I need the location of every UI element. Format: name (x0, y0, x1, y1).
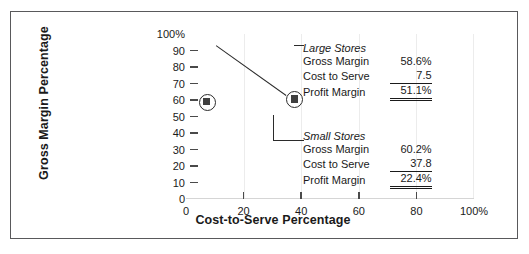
y-tick-mark (190, 132, 198, 134)
y-tick-label: 10 (173, 177, 185, 189)
y-axis-tick: 50 (136, 111, 198, 123)
y-tick-mark (190, 198, 198, 200)
callout-row-label: Gross Margin (303, 143, 390, 157)
y-axis-tick: 80 (136, 61, 198, 73)
y-tick-mark (190, 165, 198, 167)
x-tick-mark (300, 192, 302, 199)
callout-row: Gross Margin 58.6% (303, 55, 432, 69)
y-axis-tick: 30 (136, 144, 198, 156)
x-tick-label: 20 (237, 205, 249, 217)
y-tick-label: 50 (173, 111, 185, 123)
figure-frame: Gross Margin Percentage Cost-to-Serve Pe… (10, 11, 518, 239)
x-axis-title: Cost-to-Serve Percentage (123, 213, 423, 227)
data-point-large-stores[interactable] (199, 94, 216, 111)
x-tick-label: 40 (295, 205, 307, 217)
callout-row-value: 58.6% (390, 55, 432, 69)
y-tick-label: 40 (173, 127, 185, 139)
x-tick-mark (416, 192, 418, 199)
callout-table: Gross Margin 60.2% Cost to Serve 37.8 Pr… (303, 143, 432, 189)
x-axis-line (186, 198, 474, 199)
callout-row-value: 37.8 (390, 157, 432, 172)
callout-row-value: 22.4% (390, 172, 432, 188)
callout-title: Large Stores (303, 42, 432, 54)
x-tick-label: 100% (460, 205, 488, 217)
x-tick-label: 0 (183, 205, 189, 217)
y-axis-tick: 90 (136, 45, 198, 57)
y-tick-mark (190, 116, 198, 118)
y-tick-mark (190, 149, 198, 151)
callout-row: Cost to Serve 37.8 (303, 157, 432, 172)
y-tick-mark (190, 50, 198, 52)
callout-row-label: Cost to Serve (303, 157, 390, 172)
y-tick-label: 100% (157, 28, 185, 40)
y-tick-label: 70 (173, 78, 185, 90)
y-axis-tick: 10 (136, 177, 198, 189)
x-tick-mark (358, 192, 360, 199)
callout-row-label: Profit Margin (303, 172, 390, 188)
y-tick-mark (190, 99, 198, 101)
y-tick-label: 0 (179, 193, 185, 205)
callout-row-label: Gross Margin (303, 55, 390, 69)
callout-large-stores: Large Stores Gross Margin 58.6% Cost to … (303, 42, 432, 101)
y-axis-title: Gross Margin Percentage (37, 18, 51, 188)
y-axis-tick: 100% (136, 28, 198, 40)
y-tick-mark (190, 66, 198, 68)
leader-line-small-stores (273, 115, 274, 141)
y-axis-tick: 70 (136, 78, 198, 90)
y-tick-label: 20 (173, 160, 185, 172)
callout-row-value: 7.5 (390, 69, 432, 84)
callout-title: Small Stores (303, 130, 432, 142)
callout-row-label: Cost to Serve (303, 69, 390, 84)
callout-small-stores: Small Stores Gross Margin 60.2% Cost to … (303, 130, 432, 189)
callout-row-value: 60.2% (390, 143, 432, 157)
callout-row: Gross Margin 60.2% (303, 143, 432, 157)
callout-row-total: Profit Margin 51.1% (303, 84, 432, 100)
y-tick-label: 90 (173, 45, 185, 57)
callout-table: Gross Margin 58.6% Cost to Serve 7.5 Pro… (303, 55, 432, 101)
callout-row-label: Profit Margin (303, 84, 390, 100)
leader-line-small-stores-elbow (273, 140, 304, 141)
callout-row-value: 51.1% (390, 84, 432, 100)
y-axis-tick: 20 (136, 160, 198, 172)
y-tick-label: 80 (173, 61, 185, 73)
callout-row-total: Profit Margin 22.4% (303, 172, 432, 188)
callout-row: Cost to Serve 7.5 (303, 69, 432, 84)
x-tick-label: 80 (410, 205, 422, 217)
x-tick-label: 60 (353, 205, 365, 217)
y-axis-tick: 40 (136, 127, 198, 139)
y-axis-tick: 0 (136, 193, 198, 205)
y-tick-mark (190, 33, 198, 35)
y-tick-mark (190, 83, 198, 85)
y-axis-tick: 60 (136, 94, 198, 106)
y-tick-label: 60 (173, 94, 185, 106)
y-tick-mark (190, 182, 198, 184)
gridline-vertical (244, 34, 245, 199)
x-tick-mark (243, 192, 245, 199)
y-tick-label: 30 (173, 144, 185, 156)
gridline-vertical (473, 34, 474, 199)
